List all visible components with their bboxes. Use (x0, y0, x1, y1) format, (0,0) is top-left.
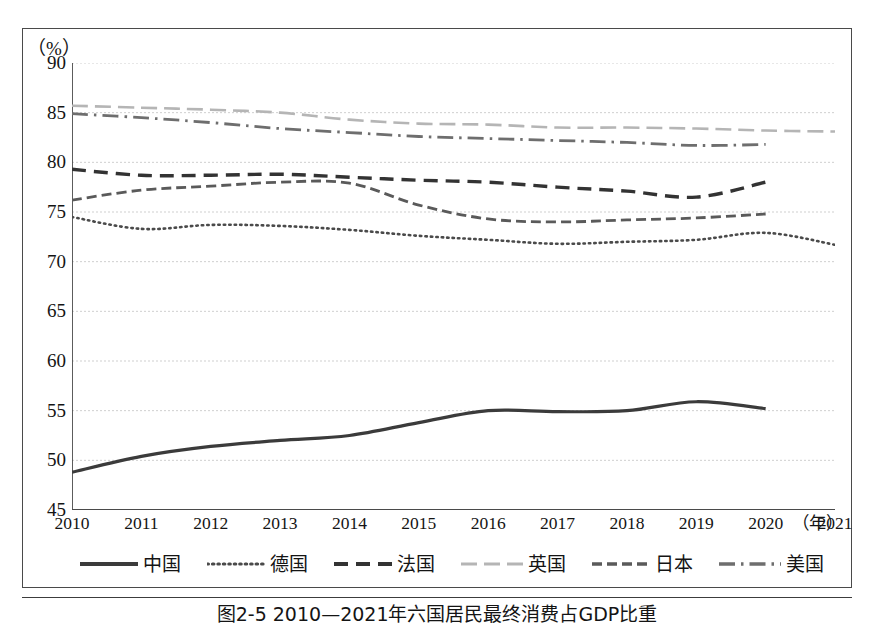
legend-item-日本[interactable]: 日本 (592, 555, 693, 574)
legend-label: 美国 (786, 555, 824, 574)
series-line-美国 (72, 114, 766, 146)
x-tick-label: 2018 (597, 513, 657, 533)
y-tick-label: 70 (22, 252, 66, 271)
legend-label: 法国 (397, 555, 435, 574)
y-tick-label: 55 (22, 401, 66, 420)
caption-divider (22, 597, 852, 598)
x-tick-label: 2010 (42, 513, 102, 533)
x-tick-label: 2012 (181, 513, 241, 533)
x-axis-tick-labels: 2010201120122013201420152016201720182019… (72, 513, 862, 539)
legend-swatch-日本 (592, 557, 650, 571)
legend-label: 中国 (143, 555, 181, 574)
x-tick-label: 2014 (319, 513, 379, 533)
legend-label: 英国 (528, 555, 566, 574)
chart-legend: 中国德国法国英国日本美国 (72, 549, 832, 579)
legend-swatch-中国 (80, 557, 138, 571)
series-line-日本 (72, 181, 766, 222)
x-tick-label: 2020 (736, 513, 796, 533)
series-line-法国 (72, 169, 766, 197)
series-line-中国 (72, 402, 766, 473)
figure-caption: 图2-5 2010—2021年六国居民最终消费占GDP比重 (22, 603, 852, 625)
y-tick-label: 90 (22, 53, 66, 72)
legend-item-英国[interactable]: 英国 (461, 555, 566, 574)
x-tick-label: 2019 (666, 513, 726, 533)
series-line-英国 (72, 106, 835, 132)
legend-item-德国[interactable]: 德国 (207, 555, 308, 574)
legend-swatch-英国 (461, 557, 523, 571)
y-tick-label: 80 (22, 152, 66, 171)
legend-item-美国[interactable]: 美国 (719, 555, 824, 574)
x-tick-label: 2013 (250, 513, 310, 533)
y-tick-label: 60 (22, 351, 66, 370)
legend-label: 德国 (270, 555, 308, 574)
x-tick-label: 2017 (528, 513, 588, 533)
y-tick-label: 75 (22, 202, 66, 221)
x-axis-unit-label: （年） (792, 513, 843, 533)
chart-plot-area (72, 63, 835, 510)
legend-swatch-德国 (207, 557, 265, 571)
x-tick-label: 2016 (458, 513, 518, 533)
y-axis-tick-labels: 90858075706560555045 (18, 63, 66, 510)
legend-swatch-美国 (719, 557, 781, 571)
legend-label: 日本 (655, 555, 693, 574)
x-tick-label: 2011 (111, 513, 171, 533)
x-tick-label: 2015 (389, 513, 449, 533)
legend-item-法国[interactable]: 法国 (334, 555, 435, 574)
y-tick-label: 65 (22, 301, 66, 320)
legend-swatch-法国 (334, 557, 392, 571)
y-tick-label: 50 (22, 450, 66, 469)
chart-svg (72, 63, 835, 510)
legend-item-中国[interactable]: 中国 (80, 555, 181, 574)
y-tick-label: 85 (22, 103, 66, 122)
series-line-德国 (72, 217, 835, 245)
